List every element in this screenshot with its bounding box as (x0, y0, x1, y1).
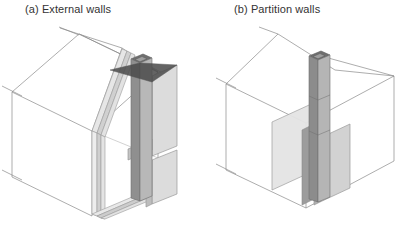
external-walls-drawing (0, 18, 204, 227)
shs-column-b (309, 51, 330, 202)
column-left-face (131, 59, 140, 201)
panel-external-walls: (a) External walls (0, 0, 204, 227)
floor-left-edge (12, 177, 92, 216)
figure-two-panel-diagram: (a) External walls (0, 0, 408, 227)
column-left-face-b (309, 56, 318, 202)
ridge-tick (59, 27, 79, 35)
panel-partition-walls: (b) Partition walls (204, 0, 408, 227)
roof-right-upper (321, 56, 394, 76)
column-right-face-b (318, 55, 330, 202)
panel-b-caption: (b) Partition walls (234, 3, 320, 15)
partition-walls-drawing (204, 18, 408, 227)
panel-b-artwork (204, 18, 408, 227)
panel-a-artwork (0, 18, 204, 227)
roof-left-slope (226, 34, 278, 84)
roof-right-slope (335, 70, 394, 76)
ridge-tick-b (259, 27, 278, 34)
panel-a-caption: (a) External walls (25, 3, 111, 15)
gable-wall-band (92, 131, 105, 219)
